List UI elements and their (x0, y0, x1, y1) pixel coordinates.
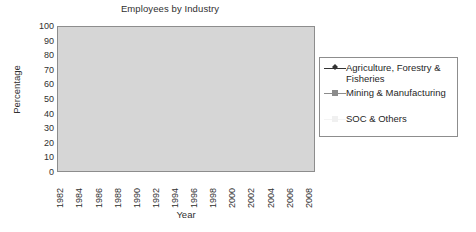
legend-marker-square-icon (324, 88, 346, 99)
x-tick-label: 2006 (286, 188, 295, 208)
y-tick-label: 70 (44, 65, 54, 74)
y-tick-label: 0 (49, 168, 54, 177)
legend-marker-light-square-icon (324, 114, 346, 125)
x-tick-label: 1984 (75, 188, 84, 208)
y-tick-label: 60 (44, 80, 54, 89)
x-tick-label: 1994 (171, 188, 180, 208)
legend-label: SOC & Others (346, 114, 407, 125)
y-axis-tick-labels: 1009080706050403020100 (28, 26, 54, 172)
plot-background (57, 26, 315, 172)
y-tick-label: 80 (44, 51, 54, 60)
chart-container: Employees by Industry Percentage 1009080… (0, 0, 476, 232)
x-tick-label: 2008 (305, 188, 314, 208)
x-tick-label: 1982 (56, 188, 65, 208)
x-tick-label: 1996 (190, 188, 199, 208)
legend-item-mining[interactable]: Mining & Manufacturing (324, 87, 457, 99)
y-tick-label: 50 (44, 95, 54, 104)
x-tick-label: 1986 (95, 188, 104, 208)
x-tick-label: 2000 (228, 188, 237, 208)
y-tick-label: 30 (44, 124, 54, 133)
y-tick-label: 100 (39, 22, 54, 31)
x-tick-label: 1990 (133, 188, 142, 208)
legend-marker-diamond-icon (324, 63, 346, 74)
x-axis-title: Year (57, 209, 315, 220)
x-tick-label: 1988 (114, 188, 123, 208)
y-tick-label: 90 (44, 36, 54, 45)
legend-label: Mining & Manufacturing (346, 88, 446, 99)
legend-label: Agriculture, Forestry & Fisheries (346, 63, 457, 84)
legend-item-soc[interactable]: SOC & Others (324, 113, 457, 125)
y-tick-label: 20 (44, 138, 54, 147)
y-axis-title: Percentage (11, 50, 22, 130)
plot-area (57, 26, 315, 172)
legend-item-agriculture[interactable]: Agriculture, Forestry & Fisheries (324, 63, 457, 85)
x-axis-tick-labels: 1982198419861988199019921994199619982000… (57, 176, 315, 208)
x-tick-label: 1998 (209, 188, 218, 208)
y-tick-label: 10 (44, 153, 54, 162)
x-tick-label: 1992 (152, 188, 161, 208)
x-tick-label: 2002 (247, 188, 256, 208)
chart-legend: Agriculture, Forestry & Fisheries Mining… (319, 57, 458, 137)
y-tick-label: 40 (44, 109, 54, 118)
chart-title: Employees by Industry (0, 3, 340, 14)
x-tick-label: 2004 (267, 188, 276, 208)
